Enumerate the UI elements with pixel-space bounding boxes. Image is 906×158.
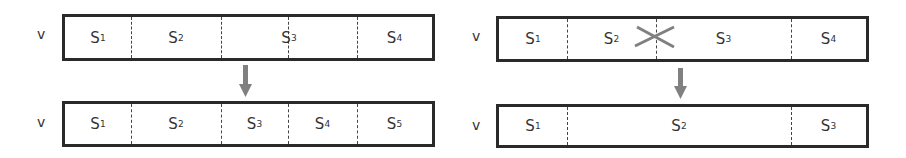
down-arrow-icon xyxy=(239,65,252,97)
overlay xyxy=(0,0,906,158)
down-arrow-icon xyxy=(674,68,687,99)
cross-icon xyxy=(635,27,674,47)
